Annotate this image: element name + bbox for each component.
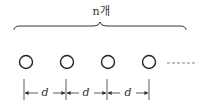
spacing-label-2: d (82, 86, 89, 99)
circle-4 (143, 56, 156, 69)
count-label: n개 (92, 5, 109, 18)
circle-3 (102, 56, 115, 69)
spacing-label-1: d (41, 86, 48, 99)
brace (14, 22, 186, 30)
spacing-label-3: d (124, 86, 131, 99)
circle-1 (20, 56, 33, 69)
circle-spacing-diagram: n개 d d d (0, 0, 204, 110)
circle-2 (61, 56, 74, 69)
